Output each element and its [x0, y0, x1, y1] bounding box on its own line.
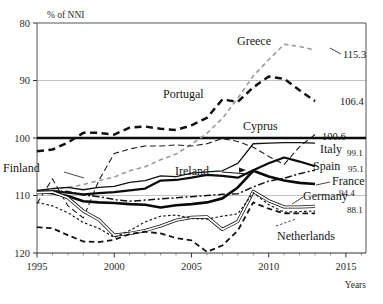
chart-container: 1201101009080 19952000200520102015 % of … [0, 0, 383, 304]
label-italy: Italy [320, 142, 342, 156]
label-ireland: Ireland [175, 164, 209, 178]
x-tick-label: 2015 [335, 261, 356, 272]
label-greece: Greece [237, 34, 271, 48]
label-cyprus: Cyprus [243, 119, 278, 133]
value-italy: 99.1 [347, 148, 363, 158]
value-spain: 95.1 [348, 164, 364, 174]
y-tick-label: 90 [20, 75, 31, 86]
y-axis-unit-label: % of NNI [47, 10, 84, 20]
x-tick-label: 2000 [104, 261, 125, 272]
y-tick-label: 120 [14, 248, 30, 259]
value-greece: 115.3 [343, 49, 366, 60]
x-tick-label: 2005 [181, 261, 202, 272]
value-portugal: 106.4 [340, 96, 364, 107]
value-cyprus: 100.6 [322, 131, 346, 142]
value-france: 94.4 [339, 188, 355, 198]
value-germany: 88.1 [347, 205, 363, 215]
y-tick-label: 110 [15, 190, 30, 201]
line-chart: 1201101009080 19952000200520102015 % of … [0, 0, 383, 304]
label-spain: Spain [313, 159, 340, 173]
label-portugal: Portugal [163, 87, 204, 101]
x-tick-label: 2010 [258, 261, 279, 272]
label-france: France [332, 174, 365, 188]
y-tick-label: 100 [14, 133, 30, 144]
label-netherlands: Netherlands [277, 229, 335, 243]
label-finland: Finland [3, 161, 40, 175]
x-axis-minor-ticks [52, 253, 361, 255]
y-tick-label: 80 [20, 18, 31, 29]
x-tick-label: 1995 [27, 261, 48, 272]
x-axis-title: Years [345, 280, 367, 290]
